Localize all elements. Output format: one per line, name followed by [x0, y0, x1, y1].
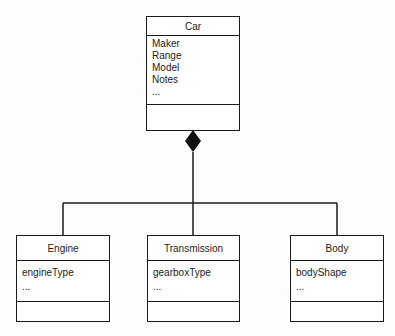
attribute: Notes [152, 74, 234, 86]
attribute: ... [152, 86, 234, 98]
class-engine: Engine engineType ... [16, 235, 110, 322]
attribute: ... [22, 280, 104, 294]
attribute: ... [296, 280, 378, 294]
class-car: Car Maker Range Model Notes ... [146, 16, 240, 131]
class-name: Transmission [148, 236, 239, 261]
attribute: engineType [22, 266, 104, 280]
class-name: Body [291, 236, 383, 261]
class-attributes: gearboxType ... [148, 261, 239, 302]
attribute: gearboxType [153, 266, 234, 280]
class-body: Body bodyShape ... [290, 235, 384, 322]
class-name: Car [147, 17, 239, 36]
attribute: Model [152, 62, 234, 74]
class-transmission: Transmission gearboxType ... [147, 235, 240, 322]
attribute: Maker [152, 38, 234, 50]
composition-diamond [185, 130, 201, 152]
class-attributes: bodyShape ... [291, 261, 383, 302]
attribute: bodyShape [296, 266, 378, 280]
class-attributes: engineType ... [17, 261, 109, 302]
attribute: ... [153, 280, 234, 294]
class-name: Engine [17, 236, 109, 261]
attribute: Range [152, 50, 234, 62]
class-attributes: Maker Range Model Notes ... [147, 36, 239, 105]
